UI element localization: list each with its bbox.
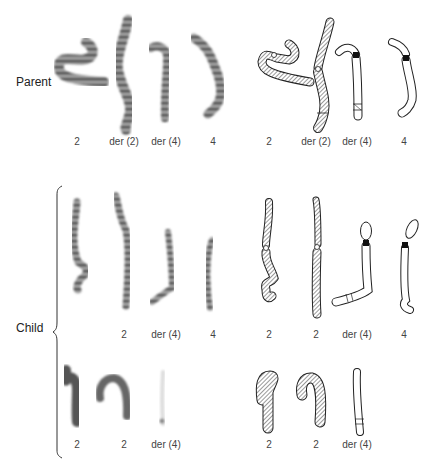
parent-photo-label: 2 bbox=[74, 136, 80, 147]
parent-photo-label: 4 bbox=[210, 136, 216, 147]
parent-diagram-der2 bbox=[316, 22, 331, 128]
parent-photo-chr2 bbox=[59, 42, 104, 82]
child-diagram-der4 bbox=[336, 222, 372, 302]
child-row1-diagram-label: 4 bbox=[401, 329, 407, 340]
child-row2-photo-label: 2 bbox=[121, 439, 127, 450]
parent-photo-label: der (2) bbox=[109, 136, 138, 147]
child-row1-photo-label: 2 bbox=[121, 329, 127, 340]
child-photo-chr2-c bbox=[66, 370, 77, 422]
child-diagram-chr2-b bbox=[315, 200, 320, 314]
parent-photo-der2 bbox=[118, 20, 131, 130]
child-row2-diagram-label: 2 bbox=[313, 439, 319, 450]
parent-photo-label: der (4) bbox=[151, 136, 180, 147]
child-row1-diagram-label: der (4) bbox=[342, 329, 371, 340]
parent-diagram-der4 bbox=[339, 48, 362, 116]
parent-diagram-label: 4 bbox=[401, 136, 407, 147]
parent-photo-chr4 bbox=[194, 38, 221, 114]
karyotype-figure bbox=[0, 0, 431, 464]
child-brace bbox=[53, 186, 62, 458]
child-diagram-chr2-d bbox=[301, 378, 320, 422]
child-row2-photo-label: 2 bbox=[74, 439, 80, 450]
child-row2-photo-label: der (4) bbox=[151, 439, 180, 450]
row-label-child: Child bbox=[16, 321, 43, 335]
child-row1-diagram-label: 2 bbox=[266, 329, 272, 340]
child-row1-diagram-label: 2 bbox=[313, 329, 319, 340]
child-diagram-der4-short bbox=[355, 372, 364, 432]
row-label-parent: Parent bbox=[16, 75, 51, 89]
child-row1-photo-label: der (4) bbox=[151, 329, 180, 340]
child-row2-diagram-label: der (4) bbox=[342, 439, 371, 450]
child-photo-der4-faint bbox=[160, 372, 165, 424]
parent-diagram-chr2 bbox=[262, 44, 310, 82]
child-row1-photo-label: 4 bbox=[210, 329, 216, 340]
child-photo-chr2-b bbox=[116, 196, 128, 306]
child-photo-chr2-d bbox=[100, 378, 128, 416]
child-diagram-chr4 bbox=[402, 218, 421, 310]
parent-diagram-label: 2 bbox=[266, 136, 272, 147]
child-row2-diagram-label: 2 bbox=[266, 439, 272, 450]
child-photo-chr2-a bbox=[74, 202, 87, 290]
parent-diagram-label: der (2) bbox=[301, 136, 330, 147]
child-diagram-chr2-a bbox=[264, 202, 275, 298]
child-diagram-chr2-c bbox=[261, 376, 273, 428]
child-photo-chr4 bbox=[207, 240, 212, 308]
parent-diagram-label: der (4) bbox=[342, 136, 371, 147]
child-photo-der4 bbox=[152, 232, 172, 302]
parent-diagram-chr4 bbox=[392, 42, 412, 113]
parent-photo-der4 bbox=[151, 46, 167, 118]
